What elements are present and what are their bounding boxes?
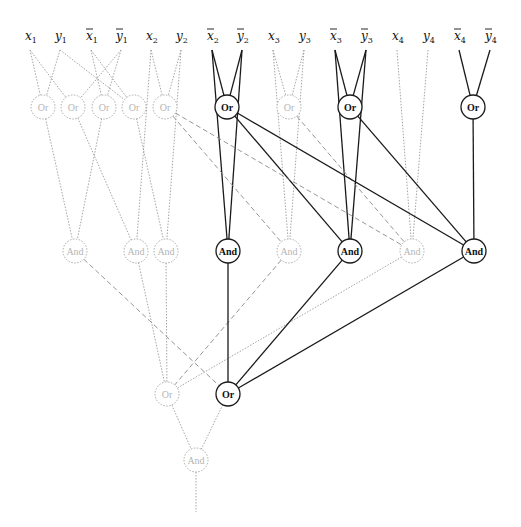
gate-label: Or — [68, 102, 79, 113]
gate-label: Or — [99, 102, 110, 113]
gate-label: Or — [222, 389, 235, 400]
gate-label: Or — [129, 102, 140, 113]
svg-text:y2: y2 — [236, 29, 249, 45]
edge-ny2-to-and4 — [229, 50, 242, 239]
edge-y3-to-or7 — [292, 50, 304, 95]
edge-or3-to-and1 — [77, 119, 101, 239]
edge-or9-to-and8 — [473, 119, 474, 239]
svg-text:x1: x1 — [86, 29, 98, 45]
svg-text:x1: x1 — [25, 29, 37, 45]
gate-and7-and: And — [400, 239, 424, 263]
gate-label: And — [187, 455, 204, 466]
gate-label: And — [280, 246, 297, 257]
input-label-ny1: y1 — [115, 29, 128, 45]
svg-text:x2: x2 — [207, 29, 219, 45]
gate-or4-or: Or — [122, 95, 146, 119]
gate-label: And — [127, 246, 144, 257]
edge-x1-to-or1 — [30, 50, 40, 95]
svg-text:y2: y2 — [175, 29, 188, 45]
input-label-nx2: x2 — [207, 29, 219, 45]
svg-text:x2: x2 — [146, 29, 158, 45]
edge-y2-to-or5 — [168, 50, 181, 95]
circuit-canvas: x1y1x1y1x2y2x2y2x3y3x3y3x4y4x4y4 OrOrOrO… — [0, 0, 521, 527]
edge-nx4-to-or9 — [459, 50, 470, 95]
svg-text:y1: y1 — [54, 29, 67, 45]
edge-and1-to-orB — [84, 259, 219, 386]
svg-text:y4: y4 — [484, 29, 497, 45]
input-label-nx4: x4 — [454, 29, 466, 45]
edges-layer — [30, 50, 490, 512]
edge-and3-to-orA — [166, 263, 167, 382]
gate-or6-or: Or — [215, 95, 239, 119]
input-label-ny3: y3 — [360, 29, 373, 45]
input-label-y4: y4 — [422, 29, 435, 45]
gate-label: And — [465, 246, 484, 257]
input-label-x3: x3 — [268, 29, 280, 45]
edge-and8-to-orB — [238, 257, 463, 388]
input-label-y2: y2 — [175, 29, 188, 45]
gate-or8-or: Or — [338, 95, 362, 119]
input-label-x2: x2 — [146, 29, 158, 45]
input-label-x1: x1 — [25, 29, 37, 45]
gate-label: And — [403, 246, 420, 257]
edge-orB-to-andF — [201, 405, 223, 449]
gate-and4-and: And — [216, 239, 240, 263]
gate-label: And — [66, 246, 83, 257]
gate-label: And — [341, 246, 360, 257]
edge-y1-to-or1 — [46, 50, 60, 96]
svg-text:y1: y1 — [115, 29, 128, 45]
edge-ny1-to-or2 — [81, 50, 121, 98]
svg-text:x3: x3 — [268, 29, 280, 45]
gate-label: And — [157, 246, 174, 257]
edge-or2-to-and2 — [78, 118, 131, 240]
gate-orA-or: Or — [155, 382, 179, 406]
edge-orA-to-andF — [172, 405, 191, 449]
svg-text:x4: x4 — [454, 29, 466, 45]
gate-or7-or: Or — [277, 95, 301, 119]
gate-label: Or — [38, 102, 49, 113]
input-label-nx1: x1 — [86, 29, 98, 45]
edge-ny4-to-or9 — [476, 50, 490, 96]
edge-y2-to-and3 — [167, 50, 181, 239]
edge-x3-to-and5 — [273, 50, 288, 239]
gate-or1-or: Or — [31, 95, 55, 119]
gate-label: Or — [344, 102, 357, 113]
gate-label: Or — [467, 102, 480, 113]
edge-or8-to-and8 — [358, 116, 466, 242]
gate-and5-and: And — [277, 239, 301, 263]
gate-and8-and: And — [462, 239, 486, 263]
edge-or4-to-and3 — [137, 119, 164, 240]
input-label-nx3: x3 — [330, 29, 342, 45]
input-label-x4: x4 — [392, 29, 404, 45]
edge-nx1-to-or3 — [91, 50, 101, 95]
svg-text:y4: y4 — [422, 29, 435, 45]
edge-x2-to-and2 — [137, 50, 151, 239]
edge-or6-to-and8 — [237, 113, 463, 245]
gate-label: Or — [221, 102, 234, 113]
svg-text:x3: x3 — [330, 29, 342, 45]
edge-or1-to-and1 — [46, 119, 73, 240]
gate-and1-and: And — [63, 239, 87, 263]
gate-andF-and: And — [184, 448, 208, 472]
gate-label: And — [219, 246, 238, 257]
input-label-y3: y3 — [298, 29, 311, 45]
gate-or2-or: Or — [61, 95, 85, 119]
edge-x2-to-or5 — [151, 50, 162, 95]
input-label-ny2: y2 — [236, 29, 249, 45]
svg-text:y3: y3 — [360, 29, 373, 45]
gate-and6-and: And — [338, 239, 362, 263]
edge-ny1-to-or3 — [107, 50, 121, 96]
circuit-diagram: x1y1x1y1x2y2x2y2x3y3x3y3x4y4x4y4 OrOrOrO… — [0, 0, 521, 527]
gate-or5-or: Or — [153, 95, 177, 119]
gate-or3-or: Or — [92, 95, 116, 119]
svg-text:x4: x4 — [392, 29, 404, 45]
gate-orB-or: Or — [216, 382, 240, 406]
input-label-ny4: y4 — [484, 29, 497, 45]
gate-label: Or — [160, 102, 171, 113]
input-label-y1: y1 — [54, 29, 67, 45]
edge-y4-to-and7 — [413, 50, 428, 239]
gate-or9-or: Or — [461, 95, 485, 119]
edge-and6-to-orB — [236, 260, 342, 385]
edge-or5-to-and5 — [173, 116, 281, 242]
gate-label: Or — [162, 389, 173, 400]
